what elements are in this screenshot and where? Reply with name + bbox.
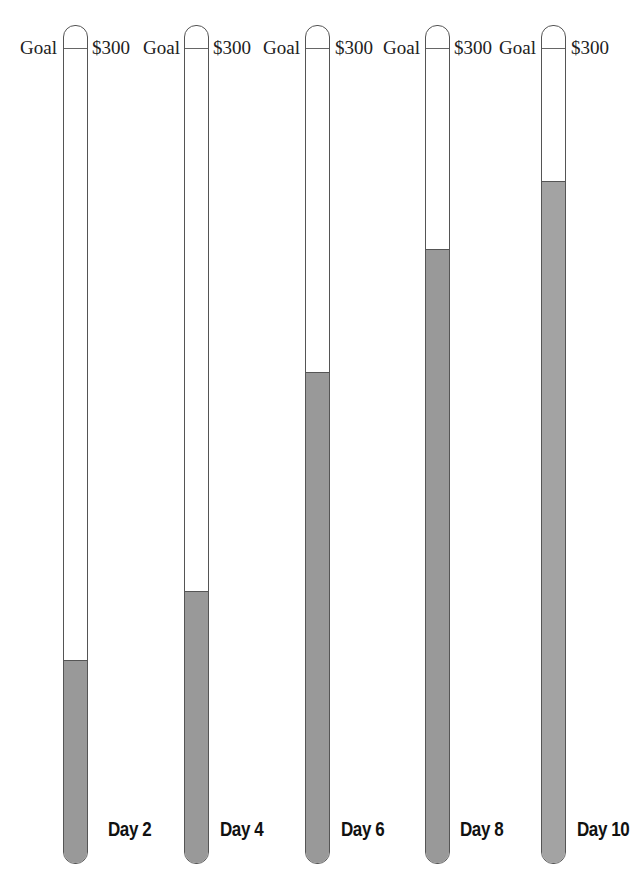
tube bbox=[425, 25, 450, 864]
tube bbox=[305, 25, 330, 864]
tube bbox=[541, 25, 566, 864]
goal-amount-label: $300 bbox=[571, 37, 609, 59]
goal-line bbox=[426, 48, 449, 49]
goal-amount-label: $300 bbox=[213, 37, 251, 59]
day-label: Day 2 bbox=[108, 818, 151, 841]
goal-label: Goal bbox=[143, 37, 180, 59]
day-label: Day 10 bbox=[577, 818, 629, 841]
goal-amount-label: $300 bbox=[92, 37, 130, 59]
progress-fill bbox=[64, 660, 87, 863]
tube bbox=[184, 25, 209, 864]
goal-label: Goal bbox=[20, 37, 57, 59]
progress-fill bbox=[542, 181, 565, 863]
progress-fill bbox=[185, 591, 208, 863]
goal-line bbox=[542, 48, 565, 49]
day-label: Day 8 bbox=[460, 818, 503, 841]
day-label: Day 4 bbox=[220, 818, 263, 841]
goal-line bbox=[185, 48, 208, 49]
progress-fill bbox=[426, 249, 449, 863]
progress-fill bbox=[306, 372, 329, 863]
goal-line bbox=[306, 48, 329, 49]
tube bbox=[63, 25, 88, 864]
goal-amount-label: $300 bbox=[335, 37, 373, 59]
goal-label: Goal bbox=[263, 37, 300, 59]
goal-amount-label: $300 bbox=[454, 37, 492, 59]
goal-label: Goal bbox=[499, 37, 536, 59]
goal-line bbox=[64, 48, 87, 49]
day-label: Day 6 bbox=[341, 818, 384, 841]
goal-label: Goal bbox=[383, 37, 420, 59]
